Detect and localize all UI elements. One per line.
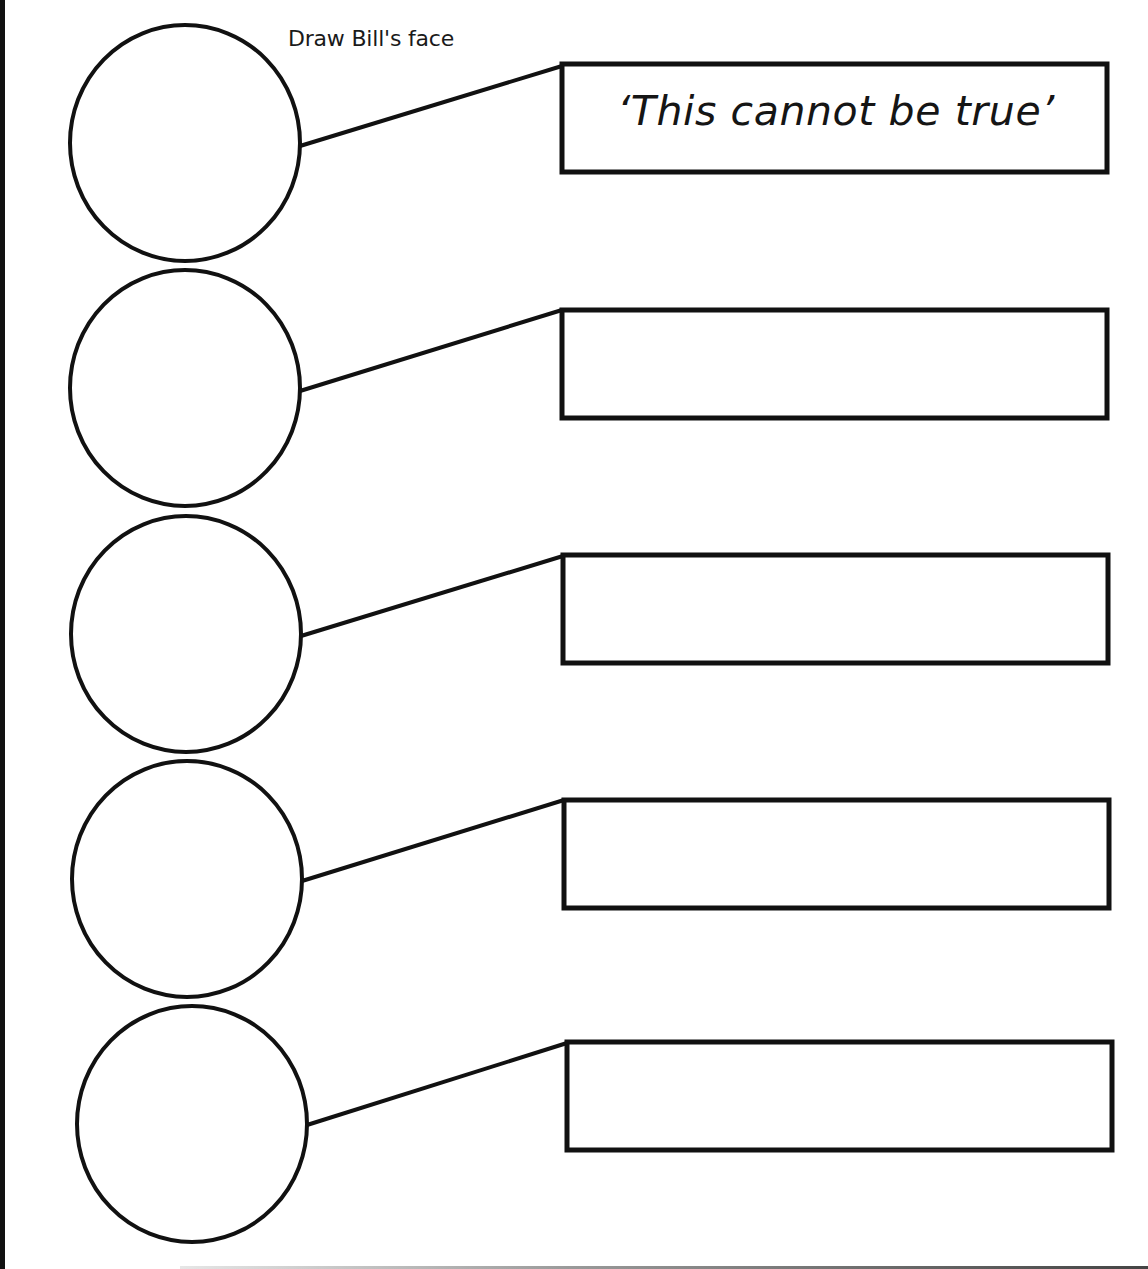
face-circle-3[interactable] bbox=[71, 516, 301, 752]
worksheet-page: Draw Bill's face ‘This cannot be true’ bbox=[0, 0, 1148, 1269]
connector-line-4 bbox=[302, 800, 564, 881]
speech-box-5[interactable] bbox=[567, 1042, 1112, 1150]
face-circle-4[interactable] bbox=[72, 761, 302, 997]
connector-line-2 bbox=[300, 310, 562, 391]
face-circle-5[interactable] bbox=[77, 1006, 307, 1242]
connector-line-3 bbox=[301, 556, 563, 636]
face-speech-diagram bbox=[0, 0, 1148, 1269]
speech-box-3[interactable] bbox=[563, 555, 1108, 663]
face-circle-1[interactable] bbox=[70, 25, 300, 261]
connector-line-5 bbox=[307, 1043, 567, 1125]
face-circle-2[interactable] bbox=[70, 270, 300, 506]
connector-line-1 bbox=[300, 66, 562, 146]
speech-box-4[interactable] bbox=[564, 800, 1109, 908]
speech-box-2[interactable] bbox=[562, 310, 1107, 418]
instruction-label: Draw Bill's face bbox=[288, 26, 454, 51]
speech-text-1: ‘This cannot be true’ bbox=[564, 64, 1108, 172]
